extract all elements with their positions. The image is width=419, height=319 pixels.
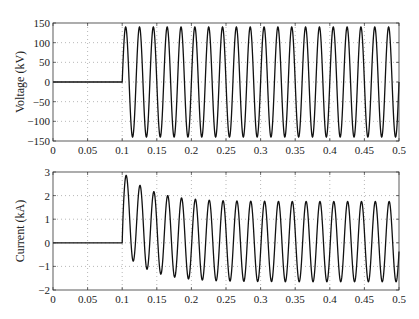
y-tick-label: 3 <box>45 166 51 178</box>
x-tick-label: 0.25 <box>216 293 236 305</box>
x-tick-label: 0.2 <box>185 144 199 156</box>
x-tick-label: 0.15 <box>147 144 167 156</box>
y-tick-label: 1 <box>45 213 51 225</box>
x-tick-label: 0.4 <box>323 293 337 305</box>
x-tick-label: 0.5 <box>392 293 406 305</box>
x-tick-label: 0.35 <box>286 144 306 156</box>
y-axis-label: Current (kA) <box>13 200 27 262</box>
x-tick-label: 0.3 <box>254 144 268 156</box>
y-tick-label: −1 <box>38 260 50 272</box>
x-tick-label: 0.15 <box>147 293 167 305</box>
y-tick-label: 0 <box>45 76 51 88</box>
y-axis-label: Voltage (kV) <box>13 51 27 113</box>
x-tick-label: 0.45 <box>355 293 375 305</box>
x-tick-label: 0.35 <box>286 293 306 305</box>
chart-figure: 00.050.10.150.20.250.30.350.40.450.51501… <box>0 0 419 319</box>
voltage-plot: 00.050.10.150.20.250.30.350.40.450.51501… <box>13 17 406 156</box>
x-tick-label: 0.1 <box>115 293 129 305</box>
x-tick-label: 0.5 <box>392 144 406 156</box>
y-tick-label: 0 <box>45 237 51 249</box>
x-tick-label: 0.3 <box>254 293 268 305</box>
y-tick-label: −150 <box>27 135 50 147</box>
x-tick-label: 0 <box>50 293 56 305</box>
x-tick-label: 0.45 <box>355 144 375 156</box>
y-tick-label: 100 <box>34 37 51 49</box>
x-tick-label: 0.05 <box>78 293 98 305</box>
y-tick-label: 150 <box>34 17 51 29</box>
x-tick-label: 0.05 <box>78 144 98 156</box>
y-tick-label: 50 <box>39 56 51 68</box>
x-tick-label: 0.25 <box>216 144 236 156</box>
y-tick-label: −50 <box>33 96 51 108</box>
y-tick-label: −100 <box>27 115 50 127</box>
y-tick-label: −2 <box>38 284 50 296</box>
x-tick-label: 0.2 <box>185 293 199 305</box>
y-tick-label: 2 <box>45 190 51 202</box>
x-tick-label: 0.1 <box>115 144 129 156</box>
current-plot: 00.050.10.150.20.250.30.350.40.450.53210… <box>13 166 406 305</box>
x-tick-label: 0.4 <box>323 144 337 156</box>
x-tick-label: 0 <box>50 144 56 156</box>
